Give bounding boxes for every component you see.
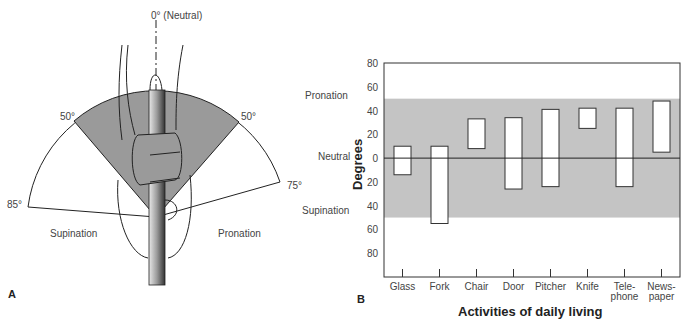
- x-tick-label: paper: [649, 291, 675, 302]
- range-bar: [579, 108, 596, 128]
- y-tick-label: 80: [367, 248, 379, 259]
- y-tick-label: 60: [367, 224, 379, 235]
- range-bar: [468, 119, 485, 149]
- neutral-angle-label: 0° (Neutral): [151, 10, 202, 21]
- figure: 0° (Neutral) 50° 50° 85° 75° Supination …: [0, 0, 687, 323]
- x-tick-label: Glass: [390, 281, 416, 292]
- range-bar: [505, 118, 522, 189]
- x-tick-label: Door: [503, 281, 525, 292]
- supination-85-label: 85°: [7, 199, 22, 210]
- side-label-neutral: Neutral: [318, 151, 350, 162]
- x-tick-label: phone: [611, 291, 639, 302]
- panel-a-forearm-rotation-diagram: 0° (Neutral) 50° 50° 85° 75° Supination …: [7, 10, 302, 300]
- side-label-pronation: Pronation: [305, 90, 348, 101]
- range-bar: [616, 108, 633, 186]
- pronation-region-label: Pronation: [218, 228, 261, 239]
- y-tick-label: 60: [367, 82, 379, 93]
- y-tick-label: 40: [367, 106, 379, 117]
- rod-icon: [149, 90, 165, 285]
- supination-region-label: Supination: [50, 228, 97, 239]
- x-tick-label: Knife: [576, 281, 599, 292]
- y-tick-label: 20: [367, 129, 379, 140]
- range-bar: [542, 109, 559, 186]
- y-tick-label: 40: [367, 201, 379, 212]
- y-axis-title: Degrees: [350, 139, 365, 190]
- supination-50-label: 50°: [60, 111, 75, 122]
- panel-b-label: B: [357, 293, 365, 305]
- pronation-50-label: 50°: [241, 111, 256, 122]
- x-tick-label: Fork: [430, 281, 451, 292]
- range-bar: [653, 101, 670, 152]
- y-tick-label: 20: [367, 177, 379, 188]
- plot-area: 80604020020406080GlassForkChairDoorPitch…: [367, 58, 680, 302]
- pronation-75-label: 75°: [287, 180, 302, 191]
- side-label-supination: Supination: [302, 205, 349, 216]
- y-tick-label: 0: [372, 153, 378, 164]
- panel-b-chart: Pronation Neutral Supination Degrees 806…: [302, 58, 680, 319]
- y-tick-label: 80: [367, 58, 379, 69]
- x-tick-label: Pitcher: [535, 281, 567, 292]
- x-axis-title: Activities of daily living: [458, 304, 603, 319]
- panel-a-label: A: [8, 288, 16, 300]
- x-tick-label: Chair: [465, 281, 490, 292]
- range-bar: [394, 146, 411, 175]
